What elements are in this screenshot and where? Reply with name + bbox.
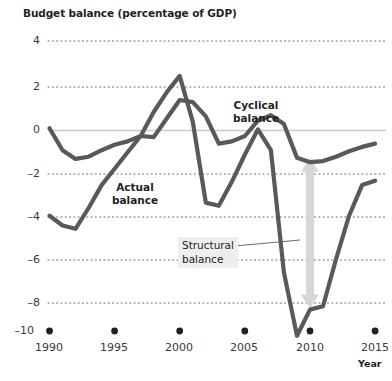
x-tick-label-2005: 2005: [222, 341, 266, 354]
x-tick-dot-1995: [111, 328, 118, 335]
x-tick-dot-2015: [372, 328, 379, 335]
y-tick-label-minus10: –10: [8, 324, 34, 337]
y-tick-label-minus6: –6: [14, 253, 40, 266]
structural-balance-callout: Structural balance: [178, 237, 238, 268]
chart-figure: Budget balance (percentage of GDP): [0, 0, 392, 381]
x-axis-title: Year: [358, 358, 382, 369]
x-tick-dot-2005: [241, 328, 248, 335]
cyclical-balance-label-line1: Cyclical: [234, 99, 279, 111]
actual-balance-label: Actual balance: [100, 181, 170, 206]
y-tick-label-2: 2: [14, 80, 40, 93]
x-tick-dot-2000: [176, 328, 183, 335]
actual-balance-label-line1: Actual: [116, 181, 154, 193]
x-tick-label-2015: 2015: [353, 341, 392, 354]
gap-arrow: [301, 158, 319, 309]
x-tick-label-2000: 2000: [157, 341, 201, 354]
structural-balance-callout-line1: Structural: [182, 239, 234, 251]
y-tick-label-0: 0: [14, 123, 40, 136]
series-structural-balance: [50, 76, 376, 336]
x-tick-label-1990: 1990: [27, 341, 71, 354]
y-tick-label-minus4: –4: [14, 210, 40, 223]
y-tick-label-4: 4: [14, 34, 40, 47]
x-tick-dot-1990: [46, 328, 53, 335]
cyclical-balance-label-line2: balance: [233, 112, 279, 124]
x-tick-label-2010: 2010: [288, 341, 332, 354]
structural-balance-callout-line2: balance: [182, 253, 223, 265]
y-tick-label-minus8: –8: [14, 296, 40, 309]
chart-plot-area: [0, 0, 392, 381]
x-tick-label-1995: 1995: [92, 341, 136, 354]
x-axis-tick-dots: [46, 328, 378, 335]
y-tick-label-minus2: –2: [14, 167, 40, 180]
x-tick-dot-2010: [307, 328, 314, 335]
cyclical-balance-label: Cyclical balance: [218, 99, 294, 124]
actual-balance-label-line2: balance: [112, 194, 158, 206]
